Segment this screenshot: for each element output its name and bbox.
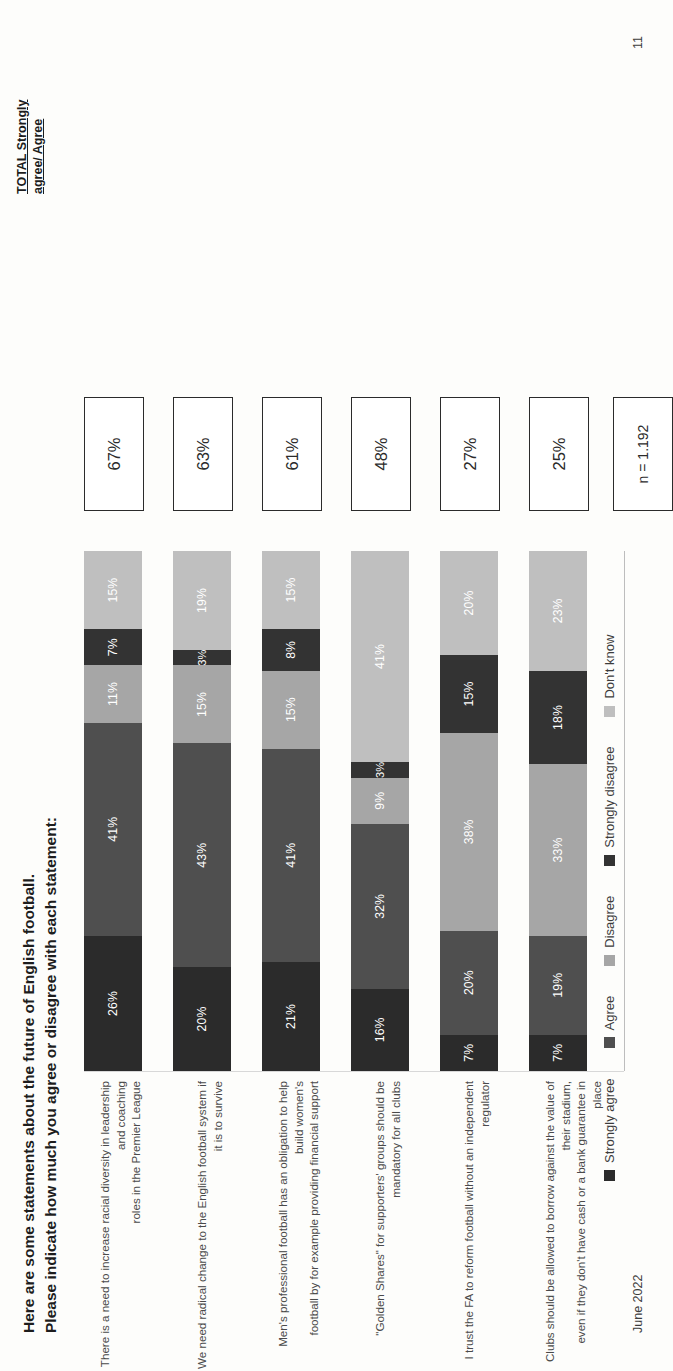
- bar-segment: 7%: [440, 1035, 498, 1071]
- bar-segment: 41%: [351, 551, 409, 762]
- total-value-box: 25%: [529, 397, 589, 511]
- legend-item-label: Strongly disagree: [602, 747, 617, 848]
- bar-segment: 41%: [262, 749, 320, 962]
- bar-segment: 9%: [351, 778, 409, 824]
- legend-item-label: Agree: [602, 996, 617, 1031]
- category-label-line: We need radical change to the English fo…: [195, 1081, 224, 1369]
- bar-segment: 3%: [351, 762, 409, 778]
- legend-swatch-icon: [604, 1037, 615, 1048]
- chart-row: There is a need to increase racial diver…: [84, 551, 142, 1071]
- bar-segment: 23%: [529, 551, 587, 671]
- bar-segment-value: 8%: [284, 641, 298, 659]
- bar-segment: 8%: [262, 629, 320, 671]
- bar-segment: 26%: [84, 936, 142, 1071]
- bar-segment-value: 3%: [196, 650, 208, 666]
- bar-segment: 41%: [84, 723, 142, 936]
- bar-segment: 7%: [529, 1035, 587, 1071]
- total-value-box: 63%: [173, 397, 233, 511]
- bar-segment-value: 7%: [462, 1044, 476, 1062]
- stacked-bar: 16%32%9%3%41%: [351, 551, 409, 1071]
- chart-legend: Strongly agreeAgreeDisagreeStrongly disa…: [602, 635, 617, 1181]
- bar-segment-value: 3%: [374, 762, 386, 778]
- bar-segment-value: 15%: [462, 682, 476, 707]
- legend-swatch-icon: [604, 855, 615, 866]
- chart-row: Clubs should be allowed to borrow agains…: [529, 551, 587, 1071]
- bar-segment-value: 20%: [195, 1007, 209, 1032]
- bar-segment-value: 16%: [373, 1017, 387, 1042]
- chart-row: We need radical change to the English fo…: [173, 551, 231, 1071]
- total-column-header: TOTAL Strongly agree/ Agree: [14, 62, 47, 194]
- chart-row: "Golden Shares" for supporters' groups s…: [351, 551, 409, 1071]
- bar-segment-value: 20%: [462, 591, 476, 616]
- category-label-line: even if they don't have cash or a bank g…: [573, 1081, 604, 1371]
- bar-segment-value: 11%: [106, 682, 120, 706]
- bar-segment: 7%: [84, 629, 142, 665]
- legend-item[interactable]: Don't know: [602, 635, 617, 717]
- bar-segment-value: 7%: [551, 1044, 565, 1062]
- category-label-line: I trust the FA to reform football withou…: [462, 1081, 491, 1359]
- bar-segment: 11%: [84, 665, 142, 722]
- bar-segment-value: 7%: [106, 638, 120, 656]
- footer-date: June 2022: [631, 1275, 645, 1333]
- bar-segment-value: 23%: [551, 598, 565, 623]
- category-label-line: football by for example providing financ…: [306, 1081, 322, 1371]
- stacked-bar: 20%43%15%3%19%: [173, 551, 231, 1071]
- bar-segment: 38%: [440, 733, 498, 931]
- sample-size-box: n = 1.192: [613, 397, 673, 511]
- bar-segment: 20%: [173, 967, 231, 1071]
- bar-segment: 15%: [173, 665, 231, 743]
- legend-swatch-icon: [604, 955, 615, 966]
- bar-segment-value: 20%: [462, 970, 476, 995]
- category-label-line: "Golden Shares" for supporters' groups s…: [373, 1081, 402, 1336]
- stacked-bar: 26%41%11%7%15%: [84, 551, 142, 1071]
- bar-segment: 15%: [262, 671, 320, 749]
- category-label: Men's professional football has an oblig…: [275, 1081, 322, 1371]
- axis-line-horizontal: [624, 551, 625, 1071]
- bar-segment: 15%: [440, 655, 498, 733]
- legend-item-label: Strongly agree: [602, 1078, 617, 1163]
- legend-item[interactable]: Disagree: [602, 896, 617, 966]
- page-number: 11: [631, 36, 645, 49]
- category-label-line: There is a need to increase racial diver…: [98, 1081, 127, 1367]
- bar-segment: 20%: [440, 931, 498, 1035]
- total-value-box: 27%: [440, 397, 500, 511]
- category-label-line: roles in the Premier League: [128, 1081, 144, 1371]
- total-column-header-line-2: agree/ Agree: [30, 62, 46, 194]
- chart-row: I trust the FA to reform football withou…: [440, 551, 498, 1071]
- bar-segment-value: 41%: [373, 644, 387, 669]
- page-title-line-1: Here are some statements about the futur…: [18, 403, 40, 1333]
- axis-line-vertical: [84, 1071, 624, 1072]
- page-title-line-2: Please indicate how much you agree or di…: [40, 403, 62, 1333]
- bar-segment-value: 26%: [106, 991, 120, 1016]
- legend-item[interactable]: Agree: [602, 996, 617, 1049]
- bar-segment-value: 43%: [195, 843, 209, 868]
- bar-segment-value: 9%: [373, 792, 387, 810]
- total-value-box: 67%: [84, 397, 144, 511]
- category-label: We need radical change to the English fo…: [194, 1081, 225, 1371]
- total-value-box: 61%: [262, 397, 322, 511]
- bar-segment: 18%: [529, 671, 587, 765]
- total-column-header-line-1: TOTAL Strongly: [14, 62, 30, 194]
- legend-item[interactable]: Strongly agree: [602, 1078, 617, 1181]
- bar-segment: 15%: [84, 551, 142, 629]
- chart-row: Men's professional football has an oblig…: [262, 551, 320, 1071]
- bar-segment-value: 19%: [551, 973, 565, 998]
- bar-segment-value: 33%: [551, 838, 565, 863]
- bar-segment: 19%: [529, 936, 587, 1035]
- bar-segment: 19%: [173, 551, 231, 650]
- category-label: "Golden Shares" for supporters' groups s…: [372, 1081, 403, 1371]
- legend-swatch-icon: [604, 1170, 615, 1181]
- bar-segment-value: 41%: [106, 817, 120, 842]
- stacked-bar: 7%19%33%18%23%: [529, 551, 587, 1071]
- bar-segment-value: 19%: [195, 588, 209, 613]
- bar-segment-value: 15%: [284, 697, 298, 722]
- bar-segment-value: 38%: [462, 819, 476, 844]
- bar-segment: 43%: [173, 743, 231, 967]
- legend-item-label: Disagree: [602, 896, 617, 948]
- page-title: Here are some statements about the futur…: [18, 403, 62, 1333]
- bar-segment-value: 41%: [284, 843, 298, 868]
- legend-item[interactable]: Strongly disagree: [602, 747, 617, 866]
- bar-segment-value: 21%: [284, 1004, 298, 1029]
- category-label: There is a need to increase racial diver…: [97, 1081, 144, 1371]
